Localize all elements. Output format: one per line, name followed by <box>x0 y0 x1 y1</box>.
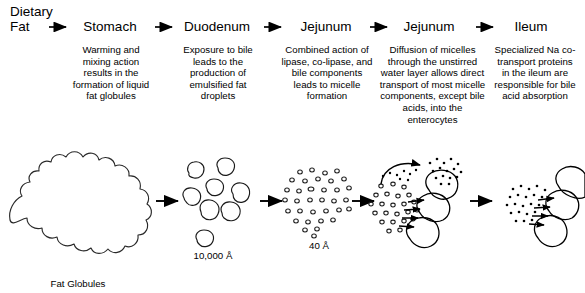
micelle-cluster-1 <box>283 168 352 238</box>
stage-description-jejunum-diffusion: Diffusion of micelles through the unstir… <box>379 44 486 125</box>
stage-description-duodenum: Exposure to bile leads to the production… <box>172 44 264 102</box>
stage-label-duodenum: Duodenum <box>175 19 259 34</box>
stage-label-jejunum-micelle: Jejunum <box>286 19 366 34</box>
diagram-canvas: Dietary Fat Stomach Duodenum Jejunum Jej… <box>0 0 585 293</box>
emulsified-fat-droplets <box>183 158 250 247</box>
fat-globule-shape <box>10 152 152 254</box>
stage-header-row: Dietary Fat Stomach Duodenum Jejunum Jej… <box>0 0 585 40</box>
micelle-scale-reference <box>312 234 317 238</box>
illustration-label-micelle-scale: 40 Å <box>288 240 350 251</box>
stage-label-dietary-fat: Dietary Fat <box>10 4 74 34</box>
illustration-label-droplet-scale: 10,000 Å <box>170 250 256 261</box>
illustration-label-fat-globules: Fat Globules <box>14 278 142 289</box>
stage-description-stomach: Warming and mixing action results in the… <box>71 44 151 102</box>
bile-acid-dots-released <box>429 158 463 186</box>
stage-label-stomach: Stomach <box>72 19 148 34</box>
bile-acid-dots-ileum <box>506 185 547 223</box>
stage-description-ileum: Specialized Na co-transport proteins in … <box>494 44 576 102</box>
bile-acid-transport-arrows-ileum <box>529 198 554 225</box>
micelle-cluster-2 <box>369 182 419 233</box>
bile-acid-curved-arrow <box>381 164 420 184</box>
bile-acid-dots-left <box>382 169 417 181</box>
stage-label-ileum: Ileum <box>498 19 564 34</box>
enterocyte-cells-jejunum <box>406 170 457 247</box>
droplet-scale-reference <box>196 230 214 247</box>
enterocyte-cells-ileum <box>534 167 585 247</box>
stage-label-jejunum-diffusion: Jejunum <box>389 19 469 34</box>
micelle-transport-arrows-jejunum <box>399 200 424 227</box>
stage-description-jejunum-micelle: Combined action of lipase, co-lipase, an… <box>281 44 373 102</box>
